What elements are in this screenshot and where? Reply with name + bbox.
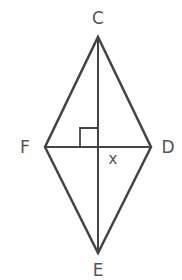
angle-label-x: x xyxy=(109,150,118,168)
vertex-label-c: C xyxy=(92,8,104,28)
vertex-label-e: E xyxy=(93,260,104,280)
right-angle-marker xyxy=(80,128,98,147)
vertex-label-d: D xyxy=(161,137,174,157)
rhombus-diagram: C F D E x xyxy=(0,0,182,280)
vertex-label-f: F xyxy=(20,137,30,157)
